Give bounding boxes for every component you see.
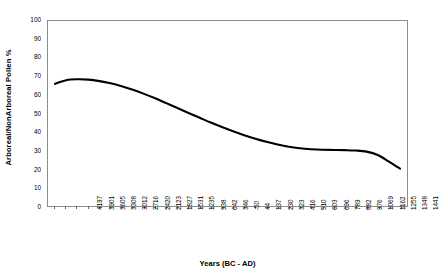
y-tick-label: 50 xyxy=(19,110,41,116)
x-tick-label-text: 230 xyxy=(287,199,293,210)
x-tick-label-text: 3012 xyxy=(142,196,148,210)
plot-area xyxy=(47,20,408,207)
y-tick-label: 10 xyxy=(19,185,41,191)
y-tick-label: 20 xyxy=(19,166,41,172)
x-tickmark xyxy=(65,206,66,209)
x-axis-tick-labels: 4197390136053308301227162420212318271531… xyxy=(47,210,408,254)
x-tick-label-text: 603 xyxy=(332,199,338,210)
x-tick-label-text: 2420 xyxy=(164,196,170,210)
x-tick-label-text: 1441 xyxy=(433,196,439,210)
x-tick-label-text: 510 xyxy=(321,199,327,210)
x-tickmark xyxy=(88,206,89,209)
x-tick-label-text: 1348 xyxy=(422,196,428,210)
x-tickmark xyxy=(76,206,77,209)
y-tick-label: 90 xyxy=(19,35,41,41)
pollen-curve xyxy=(55,79,400,168)
y-axis-tick-labels: 1009080706050403020100 xyxy=(18,20,44,207)
x-tick-label-text: 1531 xyxy=(198,196,204,210)
x-tick-label-text: 3901 xyxy=(108,196,114,210)
x-tick-label-text: 938 xyxy=(220,199,226,210)
y-tick-label: 70 xyxy=(19,73,41,79)
x-tick-label-text: 137 xyxy=(276,199,282,210)
x-tick-label-text: 346 xyxy=(243,199,249,210)
x-tick-label-text: -50 xyxy=(254,201,260,210)
x-axis-title: Years (BC - AD) xyxy=(47,259,408,268)
x-tick-label-text: 1069 xyxy=(388,196,394,210)
x-tick-label-text: 696 xyxy=(343,199,349,210)
x-tick-label-text: 789 xyxy=(355,199,361,210)
x-tick-label-text: 642 xyxy=(231,199,237,210)
y-tick-label: 60 xyxy=(19,92,41,98)
y-axis-title: Arboreal/NonArboreal Pollen % xyxy=(0,0,18,215)
x-tick-label-text: 2716 xyxy=(153,196,159,210)
x-tick-label-text: 2123 xyxy=(175,196,181,210)
plot-svg xyxy=(48,21,407,206)
y-tick-label: 0 xyxy=(19,204,41,210)
x-tick-label-text: 44 xyxy=(265,203,271,210)
y-tick-label: 40 xyxy=(19,129,41,135)
y-tick-label: 30 xyxy=(19,148,41,154)
y-tick-label: 100 xyxy=(19,17,41,23)
x-tick-label-text: 4197 xyxy=(97,196,103,210)
x-tick-label-text: 1827 xyxy=(187,196,193,210)
x-tick-label-text: 1255 xyxy=(411,196,417,210)
y-tick-label: 80 xyxy=(19,54,41,60)
x-tick-label-text: 3308 xyxy=(131,196,137,210)
x-tick-label-text: 3605 xyxy=(119,196,125,210)
y-axis-title-text: Arboreal/NonArboreal Pollen % xyxy=(5,50,14,166)
x-tick-label-text: 882 xyxy=(366,199,372,210)
x-tick-label-text: 1162 xyxy=(399,196,405,210)
x-tick-label-text: 1235 xyxy=(209,196,215,210)
x-tick-label-text: 416 xyxy=(310,199,316,210)
x-tickmark xyxy=(54,206,55,209)
pollen-line-chart: Arboreal/NonArboreal Pollen % 1009080706… xyxy=(0,0,442,280)
x-tick-label-text: 976 xyxy=(377,199,383,210)
x-tick-label-text: 323 xyxy=(299,199,305,210)
